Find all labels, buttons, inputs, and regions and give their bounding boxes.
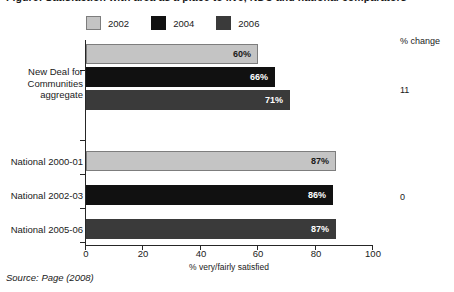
legend-swatch-2004 xyxy=(151,16,166,30)
legend-label-2006: 2006 xyxy=(238,18,259,29)
y-axis-tick-group-sep xyxy=(80,140,86,141)
x-tick-label-100: 100 xyxy=(365,248,381,259)
pct-change-value-national: 0 xyxy=(400,192,430,202)
bar-label: 60% xyxy=(233,49,257,59)
plot-area: 60% 66% 71% 87% 86% 87% xyxy=(86,40,373,245)
bar-label: 66% xyxy=(250,72,274,82)
x-tick-label-0: 0 xyxy=(83,248,88,259)
bar-label: 87% xyxy=(311,156,335,166)
category-label-national-2000-01: National 2000-01 xyxy=(0,156,83,168)
source-note: Source: Page (2008) xyxy=(6,272,94,283)
bar-label: 87% xyxy=(311,224,335,234)
category-label-national-2002-03: National 2002-03 xyxy=(0,190,83,202)
y-axis-tick-nat-2002 xyxy=(80,208,86,209)
x-tick-label-60: 60 xyxy=(253,248,264,259)
legend-item-2004: 2004 xyxy=(151,16,194,30)
bar-national-2000-01[interactable]: 87% xyxy=(86,151,336,171)
pct-change-value-ndc: 11 xyxy=(400,85,430,95)
chart-title: Figure: Satisfaction with area as a plac… xyxy=(6,0,446,3)
category-label-ndc: New Deal for Communities aggregate xyxy=(0,66,83,101)
legend-swatch-2006 xyxy=(216,16,231,30)
bar-national-2002-03[interactable]: 86% xyxy=(86,185,333,205)
bar-ndc-2004[interactable]: 66% xyxy=(86,67,275,87)
legend-item-2002: 2002 xyxy=(86,16,129,30)
chart-figure: Figure: Satisfaction with area as a plac… xyxy=(0,0,454,292)
legend-item-2006: 2006 xyxy=(216,16,259,30)
x-tick-label-20: 20 xyxy=(138,248,149,259)
legend-label-2002: 2002 xyxy=(108,18,129,29)
bar-label: 86% xyxy=(308,190,332,200)
x-tick-label-80: 80 xyxy=(311,248,322,259)
legend-swatch-2002 xyxy=(86,16,101,30)
pct-change-header: % change xyxy=(400,36,440,46)
legend-label-2004: 2004 xyxy=(173,18,194,29)
category-label-national-2005-06: National 2005-06 xyxy=(0,224,83,236)
chart-legend: 2002 2004 2006 xyxy=(86,16,259,30)
x-axis-title: % very/fairly satisfied xyxy=(189,262,269,272)
x-tick-label-40: 40 xyxy=(196,248,207,259)
bar-ndc-2002[interactable]: 60% xyxy=(86,44,258,64)
bar-national-2005-06[interactable]: 87% xyxy=(86,219,336,239)
y-axis-tick-nat-2005 xyxy=(80,242,86,243)
y-axis-tick-nat-2000 xyxy=(80,174,86,175)
x-axis-line xyxy=(85,245,373,246)
bar-ndc-2006[interactable]: 71% xyxy=(86,90,290,110)
bar-label: 71% xyxy=(265,95,289,105)
